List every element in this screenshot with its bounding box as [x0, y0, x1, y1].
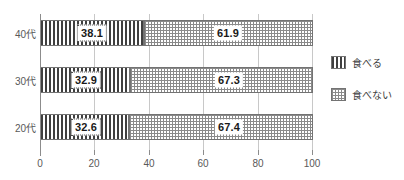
x-tick-mark-100 [312, 150, 313, 155]
legend-item-noteat: 食べない [331, 86, 404, 102]
x-axis-label-20: 20 [88, 158, 99, 169]
x-axis-label-80: 80 [252, 158, 263, 169]
y-axis-label-40s: 40代 [0, 26, 36, 41]
table-row: 32.6 67.4 [40, 114, 313, 140]
x-tick-mark-80 [258, 150, 259, 155]
table-row: 38.1 61.9 [40, 20, 313, 46]
x-tick-mark-40 [149, 150, 150, 155]
legend: 食べる 食べない [331, 54, 404, 118]
legend-swatch-stripes-icon [331, 56, 346, 69]
y-axis-line [40, 14, 41, 156]
x-axis-label-40: 40 [143, 158, 154, 169]
x-axis-label-0: 0 [37, 158, 43, 169]
x-axis-label-100: 100 [304, 158, 321, 169]
table-row: 32.9 67.3 [40, 67, 313, 93]
value-label-eat-20s: 32.6 [71, 119, 101, 136]
y-axis-label-30s: 30代 [0, 73, 36, 88]
value-label-noteat-40s: 61.9 [214, 26, 242, 41]
stacked-bar-chart: 38.1 61.9 32.9 67.3 32.6 67.4 40代 30代 20… [0, 0, 404, 180]
x-axis-label-60: 60 [197, 158, 208, 169]
value-label-eat-40s: 38.1 [77, 25, 107, 42]
plot-area: 38.1 61.9 32.9 67.3 32.6 67.4 [40, 14, 313, 150]
y-axis-label-20s: 20代 [0, 120, 36, 135]
x-tick-mark-20 [94, 150, 95, 155]
value-label-noteat-20s: 67.4 [215, 120, 243, 135]
value-label-eat-30s: 32.9 [71, 72, 101, 89]
legend-swatch-dots-icon [331, 88, 346, 101]
value-label-noteat-30s: 67.3 [215, 73, 243, 88]
legend-label-eat: 食べる [352, 55, 382, 70]
legend-label-noteat: 食べない [352, 87, 392, 102]
x-tick-mark-0 [40, 150, 41, 155]
x-tick-mark-60 [203, 150, 204, 155]
legend-item-eat: 食べる [331, 54, 404, 70]
